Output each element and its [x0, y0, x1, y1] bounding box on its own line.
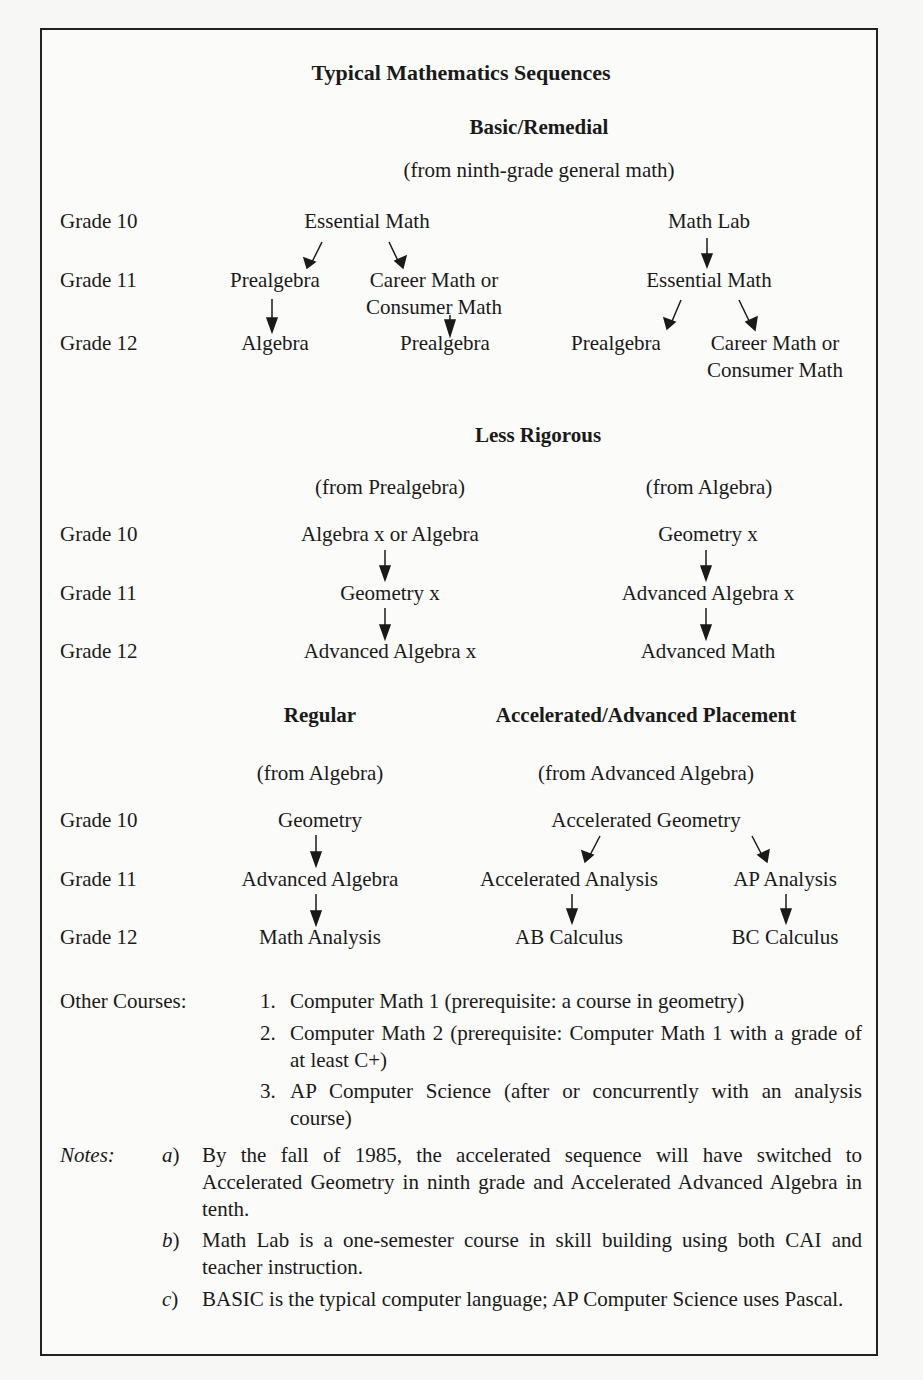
course-node: Career Math or: [711, 330, 839, 356]
course-node: Consumer Math: [707, 357, 843, 383]
grade-label-11: Grade 11: [60, 580, 137, 606]
course-node: Accelerated Analysis: [480, 866, 658, 892]
course-node: Advanced Algebra x: [622, 580, 795, 606]
course-node: Algebra x or Algebra: [301, 521, 479, 547]
grade-label-12: Grade 12: [60, 924, 138, 950]
note-item: a) By the fall of 1985, the accelerated …: [202, 1142, 862, 1223]
course-node: AB Calculus: [515, 924, 623, 950]
course-node: Prealgebra: [571, 330, 661, 356]
note-item: c) BASIC is the typical computer languag…: [202, 1286, 862, 1313]
regular-from: (from Algebra): [257, 760, 384, 786]
course-node: Essential Math: [304, 208, 429, 234]
course-node: Geometry x: [658, 521, 758, 547]
section-heading-regular: Regular: [284, 702, 356, 728]
course-node: Essential Math: [646, 267, 771, 293]
grade-label-10: Grade 10: [60, 208, 138, 234]
grade-label-12: Grade 12: [60, 638, 138, 664]
course-node: Advanced Algebra: [242, 866, 399, 892]
less-right-from: (from Algebra): [646, 474, 773, 500]
course-node: Accelerated Geometry: [551, 807, 740, 833]
course-node: Geometry: [278, 807, 362, 833]
section-heading-accelerated: Accelerated/Advanced Placement: [496, 702, 796, 728]
note-item: b) Math Lab is a one-semester course in …: [202, 1227, 862, 1281]
course-node: Consumer Math: [366, 294, 502, 320]
notes-label: Notes:: [60, 1142, 115, 1168]
less-left-from: (from Prealgebra): [315, 474, 465, 500]
course-node: Algebra: [241, 330, 309, 356]
course-node: AP Analysis: [733, 866, 837, 892]
course-node: Advanced Algebra x: [304, 638, 477, 664]
accel-from: (from Advanced Algebra): [538, 760, 754, 786]
other-course-item: 2. Computer Math 2 (prerequisite: Comput…: [290, 1020, 862, 1074]
section-heading-basic: Basic/Remedial: [470, 114, 609, 140]
basic-from: (from ninth-grade general math): [403, 157, 674, 183]
grade-label-11: Grade 11: [60, 267, 137, 293]
other-course-item: 1. Computer Math 1 (prerequisite: a cour…: [290, 988, 862, 1015]
page-title: Typical Mathematics Sequences: [311, 60, 610, 86]
grade-label-10: Grade 10: [60, 521, 138, 547]
course-node: Career Math or: [370, 267, 498, 293]
course-node: Math Analysis: [259, 924, 381, 950]
course-node: Advanced Math: [641, 638, 776, 664]
grade-label-12: Grade 12: [60, 330, 138, 356]
other-course-item: 3. AP Computer Science (after or concurr…: [290, 1078, 862, 1132]
other-courses-label: Other Courses:: [60, 988, 187, 1014]
grade-label-10: Grade 10: [60, 807, 138, 833]
course-node: Geometry x: [340, 580, 440, 606]
course-node: BC Calculus: [732, 924, 839, 950]
grade-label-11: Grade 11: [60, 866, 137, 892]
course-node: Math Lab: [668, 208, 750, 234]
course-node: Prealgebra: [230, 267, 320, 293]
course-node: Prealgebra: [400, 330, 490, 356]
section-heading-less-rigorous: Less Rigorous: [475, 422, 601, 448]
